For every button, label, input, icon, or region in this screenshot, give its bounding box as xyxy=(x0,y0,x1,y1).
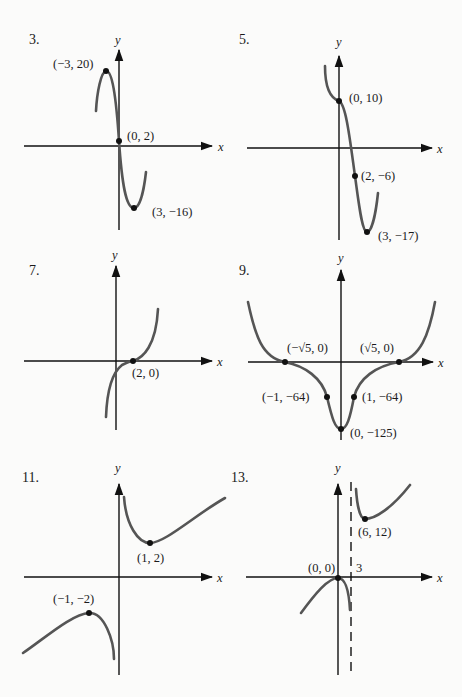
problem-number: 13. xyxy=(231,470,249,485)
graphs-page: 3. y x (−3, 20) (0, 2) (3, −16) 5. y x (… xyxy=(0,0,462,697)
point-label: (0, 0) xyxy=(308,561,335,575)
asymptote-label: 3 xyxy=(356,561,362,575)
problem-number: 11. xyxy=(22,470,39,485)
point-label: (−3, 20) xyxy=(53,57,93,71)
x-axis-label: x xyxy=(437,356,444,370)
point-label: (√5, 0) xyxy=(360,341,394,355)
point-label: (6, 12) xyxy=(358,525,391,539)
point-label: (2, 0) xyxy=(132,366,159,380)
point xyxy=(282,359,288,365)
graph-11: 11. y x (1, 2) (−1, −2) xyxy=(22,461,225,675)
point-label: (−√5, 0) xyxy=(287,341,328,355)
problem-number: 5. xyxy=(239,32,250,47)
point xyxy=(338,426,344,432)
point-label: (0, 2) xyxy=(127,129,154,143)
curve-left-branch xyxy=(23,613,114,659)
y-axis-label: y xyxy=(113,33,121,47)
x-axis-label: x xyxy=(216,355,223,369)
problem-number: 3. xyxy=(29,32,40,47)
x-axis-label: x xyxy=(216,571,223,585)
point-label: (0, −125) xyxy=(350,426,397,440)
y-axis-label: y xyxy=(336,251,344,265)
curve-right-branch xyxy=(356,485,410,519)
point-label: (−1, −64) xyxy=(262,390,309,404)
point xyxy=(335,575,341,581)
point-label: (−1, −2) xyxy=(53,592,94,606)
y-axis-label: y xyxy=(110,248,118,262)
point-label: (3, −16) xyxy=(152,205,192,219)
point xyxy=(86,610,92,616)
point xyxy=(116,138,122,144)
point xyxy=(351,394,357,400)
y-axis-label: y xyxy=(333,461,341,475)
y-axis-label: y xyxy=(113,461,121,475)
x-axis-label: x xyxy=(436,142,443,156)
problem-number: 7. xyxy=(29,263,40,278)
point xyxy=(352,173,358,179)
point-label: (0, 10) xyxy=(349,91,382,105)
problem-number: 9. xyxy=(239,263,250,278)
curve-left-branch xyxy=(301,578,350,613)
point-label: (3, −17) xyxy=(378,229,418,243)
graph-13: 13. y x 3 (0, 0) (6, 12) xyxy=(231,461,443,675)
curve-right-branch xyxy=(124,497,225,543)
point-label: (1, −64) xyxy=(362,390,402,404)
x-axis-label: x xyxy=(436,571,443,585)
point xyxy=(147,540,153,546)
point xyxy=(336,98,342,104)
y-axis-label: y xyxy=(334,35,342,49)
point xyxy=(103,68,109,74)
graph-7: 7. y x (2, 0) xyxy=(24,248,223,430)
graph-5: 5. y x (0, 10) (2, −6) (3, −17) xyxy=(239,32,443,243)
graph-9: 9. y x (−√5, 0) (√5, 0) (−1, −64) (1, −6… xyxy=(239,251,444,440)
x-axis-label: x xyxy=(217,140,224,154)
point xyxy=(131,205,137,211)
point xyxy=(396,359,402,365)
point xyxy=(324,394,330,400)
point xyxy=(362,516,368,522)
graph-3: 3. y x (−3, 20) (0, 2) (3, −16) xyxy=(24,32,224,230)
point xyxy=(130,358,136,364)
point xyxy=(364,229,370,235)
point-label: (1, 2) xyxy=(137,551,164,565)
point-label: (2, −6) xyxy=(361,169,395,183)
